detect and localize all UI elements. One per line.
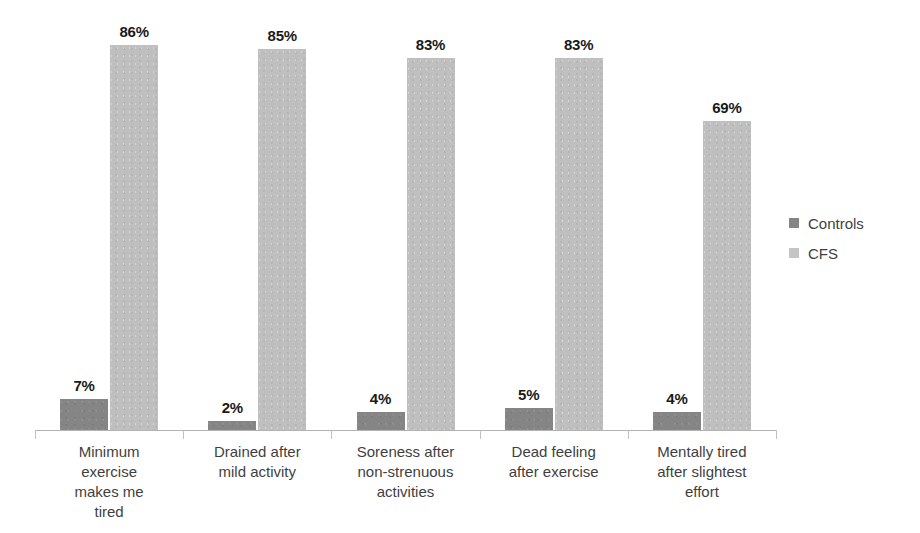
chart-legend: ControlsCFS	[789, 208, 864, 268]
bar-cfs	[110, 45, 158, 430]
category-label: Soreness afternon-strenuousactivities	[331, 442, 479, 502]
bar-value-label: 4%	[666, 391, 687, 406]
category-label-line: Minimum	[35, 442, 183, 462]
bar-value-label: 7%	[73, 378, 94, 393]
axis-tick	[628, 430, 629, 439]
category-label-row: Minimumexercisemakes metiredDrained afte…	[35, 442, 776, 532]
bar-controls	[653, 412, 701, 430]
category-label-line: Dead feeling	[480, 442, 628, 462]
bar-group-2-cfs: 85%	[258, 28, 306, 430]
bar-group-4-controls: 5%	[505, 387, 553, 430]
bar-value-label: 85%	[268, 28, 297, 43]
bar-group-5-controls: 4%	[653, 391, 701, 430]
axis-tick	[331, 430, 332, 439]
category-label-line: after exercise	[480, 462, 628, 482]
category-label: Drained aftermild activity	[183, 442, 331, 482]
category-label-line: Mentally tired	[628, 442, 776, 462]
bar-group-5-cfs: 69%	[703, 100, 751, 430]
category-label-line: Soreness after	[331, 442, 479, 462]
bar-value-label: 69%	[712, 100, 741, 115]
bar-group-1-controls: 7%	[60, 378, 108, 430]
bar-value-label: 86%	[119, 24, 148, 39]
bar-group-3-controls: 4%	[357, 391, 405, 430]
x-axis-line	[35, 430, 776, 431]
bar-group-1-cfs: 86%	[110, 24, 158, 430]
axis-tick-end	[776, 430, 777, 439]
bar-cfs	[703, 121, 751, 430]
bar-group-3-cfs: 83%	[407, 37, 455, 430]
bar-group-2-controls: 2%	[208, 400, 256, 430]
legend-swatch-icon	[789, 248, 799, 258]
bar-cfs	[555, 58, 603, 430]
bar-value-label: 2%	[222, 400, 243, 415]
category-label-line: Drained after	[183, 442, 331, 462]
bar-controls	[505, 408, 553, 430]
bar-controls	[208, 421, 256, 430]
bar-cfs	[407, 58, 455, 430]
legend-swatch-icon	[789, 218, 799, 228]
bar-value-label: 5%	[518, 387, 539, 402]
category-label-line: non-strenuous	[331, 462, 479, 482]
category-label-line: tired	[35, 502, 183, 522]
category-label: Minimumexercisemakes metired	[35, 442, 183, 522]
category-label-line: mild activity	[183, 462, 331, 482]
category-label-line: effort	[628, 482, 776, 502]
bar-controls	[357, 412, 405, 430]
category-label-line: after slightest	[628, 462, 776, 482]
category-label-line: makes me	[35, 482, 183, 502]
axis-tick	[183, 430, 184, 439]
bar-value-label: 83%	[564, 37, 593, 52]
category-label-line: activities	[331, 482, 479, 502]
category-label: Mentally tiredafter slightesteffort	[628, 442, 776, 502]
legend-label: CFS	[808, 245, 838, 262]
bar-value-label: 83%	[416, 37, 445, 52]
bar-value-label: 4%	[370, 391, 391, 406]
axis-tick-start	[35, 430, 36, 439]
bar-controls	[60, 399, 108, 430]
legend-label: Controls	[808, 215, 864, 232]
bar-group-4-cfs: 83%	[555, 37, 603, 430]
plot-area: 7%86%2%85%4%83%5%83%4%69%	[35, 10, 775, 430]
axis-tick	[480, 430, 481, 439]
bar-chart: 7%86%2%85%4%83%5%83%4%69% Minimumexercis…	[0, 0, 920, 533]
category-label-line: exercise	[35, 462, 183, 482]
category-label: Dead feelingafter exercise	[480, 442, 628, 482]
bar-cfs	[258, 49, 306, 430]
legend-item-cfs[interactable]: CFS	[789, 238, 864, 268]
legend-item-controls[interactable]: Controls	[789, 208, 864, 238]
